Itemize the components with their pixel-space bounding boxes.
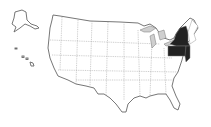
contiguous-us bbox=[48, 15, 198, 112]
state-alaska bbox=[12, 10, 39, 32]
state-pennsylvania bbox=[168, 46, 186, 56]
state-new-york bbox=[170, 26, 190, 46]
state-hawaii bbox=[15, 48, 34, 66]
state-borders bbox=[50, 17, 178, 100]
us-map bbox=[0, 0, 211, 127]
state-new-england bbox=[188, 20, 198, 44]
state-new-jersey bbox=[185, 46, 190, 62]
